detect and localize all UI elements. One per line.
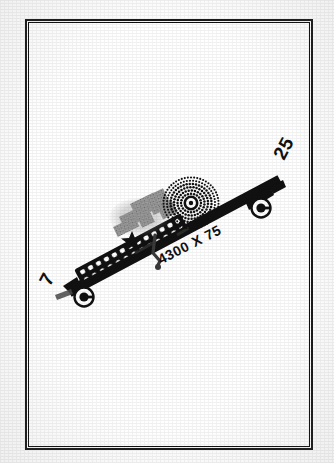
runway-end-marker-7 xyxy=(75,288,95,307)
diagram-frame: 7 25 4300 X 75 xyxy=(25,19,313,450)
scanned-page: 7 25 4300 X 75 xyxy=(0,0,334,463)
diagram-canvas: 7 25 4300 X 75 xyxy=(27,21,311,448)
runway-end-marker-25 xyxy=(252,199,272,218)
airport-map-svg xyxy=(27,21,311,448)
